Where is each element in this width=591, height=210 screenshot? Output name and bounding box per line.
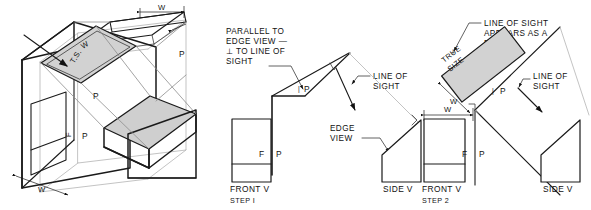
front-view-label-step1: FRONT V	[230, 184, 269, 194]
note-parallel-line2: EDGE VIEW —	[226, 37, 288, 46]
note-los-step2-line1: LINE OF	[533, 72, 568, 81]
leader-line-of-sight-step1	[352, 76, 370, 84]
label-p-lower: P	[82, 131, 88, 141]
note-los-step1-line2: SIGHT	[373, 82, 400, 91]
leader-edge-view	[362, 138, 389, 152]
fold-label-f-step1: F	[259, 149, 265, 159]
label-p-top: P	[179, 49, 185, 59]
side-view-step2	[541, 120, 580, 182]
line-of-sight-arrow-step1	[336, 68, 355, 110]
front-view-step1	[232, 119, 271, 182]
note-parallel-line1: PARALLEL TO	[226, 27, 284, 36]
technical-drawing-figure: W W W T.S. P P P F PARALLEL TO EDGE VIEW…	[0, 0, 591, 210]
wedge-block	[104, 96, 196, 168]
note-point-line1: LINE OF SIGHT	[484, 19, 548, 28]
side-view-label-step1: SIDE V	[383, 184, 413, 194]
label-f-vertical: F	[64, 132, 73, 137]
note-los-step1-line1: LINE OF	[373, 72, 408, 81]
step-1: PARALLEL TO EDGE VIEW — ⊥ TO LINE OF SIG…	[226, 27, 421, 205]
step-label-2: STEP 2	[422, 196, 449, 205]
front-view-label-step2: FRONT V	[422, 184, 461, 194]
side-view-step1	[382, 120, 421, 182]
inclined-surface-true-size	[41, 26, 136, 83]
step2-fold-p-upper: P	[500, 86, 506, 96]
leader-line-of-sight-step2	[519, 79, 530, 87]
dim-label-w-bottom: W	[38, 185, 46, 194]
note-parallel-line3: ⊥ TO LINE OF	[226, 47, 285, 56]
dim-label-w-top: W	[158, 3, 166, 12]
label-p-mid: P	[93, 91, 99, 101]
note-parallel-line4: SIGHT	[226, 57, 253, 66]
dim-label-w-front: W	[444, 105, 452, 114]
step-2: LINE OF SIGHT APPEARS AS A POINT + TRUE …	[422, 19, 589, 205]
right-angle-marker-step2	[469, 104, 475, 110]
step2-fold-tick: |	[492, 87, 494, 95]
projection-ray-step1	[349, 53, 419, 123]
note-los-step2-line2: SIGHT	[533, 82, 560, 91]
fold-label-p-step2: P	[479, 149, 485, 159]
drawing-canvas: W W W T.S. P P P F PARALLEL TO EDGE VIEW…	[0, 0, 591, 210]
pictorial-isometric: W W W T.S. P P P F	[16, 3, 196, 195]
fold-label-p-step1: P	[276, 149, 282, 159]
front-face-opening	[31, 92, 66, 175]
note-edge-view-line2: VIEW	[330, 134, 353, 143]
line-of-sight-arrow-step2	[518, 88, 542, 112]
fold-label-f-step2: F	[462, 149, 468, 159]
side-view-label-step2: SIDE V	[543, 184, 573, 194]
step-label-1: STEP I	[230, 196, 255, 205]
step1-fold-p-upper: P	[304, 84, 310, 94]
note-edge-view-line1: EDGE	[330, 124, 355, 133]
step1-fold-tick-label: |	[298, 85, 300, 93]
fold-line-step1	[272, 53, 350, 175]
front-view-step2	[424, 119, 465, 182]
